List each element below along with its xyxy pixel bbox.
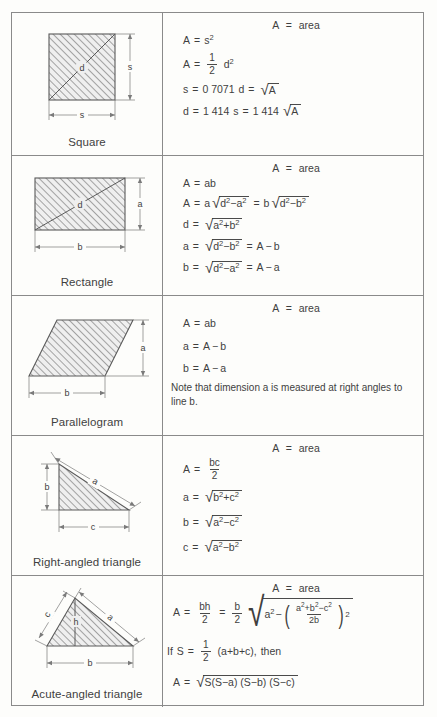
sym-area-word: area [299,19,320,31]
f-if: If [167,646,173,658]
f-const: 0 7071 [202,84,234,96]
f-then: then [261,646,281,658]
f-const: 1 414 [253,106,279,118]
label-base-b: b [87,658,92,668]
num-inner: a2+b2−c2 [294,604,334,614]
frac-inner: a2+b2−c2 2b [294,604,334,625]
f-A: A [257,241,264,253]
f-b: b [220,341,226,353]
figure-right-triangle: b c a [12,436,162,556]
area-header-right-triangle: A = area [163,442,423,454]
figure-cell-right-triangle: b c a [12,436,163,575]
f-a: a [183,492,189,504]
f-d: d [183,219,189,231]
f-eq: = [193,492,199,504]
sym-A: A [272,442,278,454]
f-c: c [183,542,188,554]
f-eq: = [248,84,254,96]
figure-parallelogram: a b [12,296,162,416]
f-b: b [274,241,280,253]
formula-square-2: A = 1 2 d2 [183,53,423,76]
label-diagonal-d: d [77,199,82,209]
frac-bc-2: bc 2 [207,458,222,481]
f-b: b [183,363,189,375]
f-b: b [264,198,270,210]
radical-A: √A [283,104,301,119]
label-base-b: b [64,388,69,398]
f-a2: a2 [264,609,274,621]
formula-para-1: A = ab [183,318,423,330]
f-eq: = [193,241,199,253]
f-eq: = [194,318,200,330]
f-div: − [266,262,272,274]
f-A: A [183,59,190,71]
parallelogram-diagram: a b [17,304,157,409]
shape-name-right-triangle: Right-angled triangle [33,556,141,575]
radical-heron: √ S(S−a) (S−b) (S−c) [196,675,298,690]
sym-equals: = [286,302,292,314]
label-height-h: h [73,617,78,627]
f-d: d [183,106,189,118]
radical-a2-b2: √a2−b2 [204,540,241,555]
sym-A: A [272,162,278,174]
radical-d2-b2: √d2−b2 [271,196,308,211]
area-header-parallelogram: A = area [163,302,423,314]
f-eq: = [188,646,194,658]
shape-name-parallelogram: Parallelogram [51,416,123,435]
shape-name-acute-triangle: Acute-angled triangle [32,688,143,707]
frac-b-2: b 2 [232,602,242,625]
formula-table: d s s Square [11,12,424,706]
sym-equals: = [286,162,292,174]
f-s: s [183,84,188,96]
f-A: A [173,607,180,619]
f-ab: ab [204,178,216,190]
formula-rect-2: A = a √d2−a2 = b √d2−b2 [183,196,423,211]
formula-rt-1: A = bc 2 [183,458,423,481]
radical-d2-a2: √d2−a2 [205,261,242,276]
f-eq: = [246,241,252,253]
f-eq: = [184,677,190,689]
f-ab: ab [204,318,216,330]
formula-at-3: A = √ S(S−a) (S−b) (S−c) [173,675,423,690]
heron-body: S(S−a) (S−b) (S−c) [203,675,297,690]
label-vertical-b: b [44,482,49,492]
f-A: A [203,341,210,353]
formula-cell-acute-triangle: A = area A = bh 2 = b 2 [163,576,423,707]
formula-cell-rectangle: A = area A = ab A = a √d2−a2 = b √d2−b2 [163,156,423,295]
sym-A: A [272,302,278,314]
formula-square-3: s = 0 7071 d = √A [183,83,423,98]
square-diagram: d s s [17,20,157,130]
area-header-rectangle: A = area [163,162,423,174]
f-eq: = [253,198,259,210]
f-eq: = [219,607,225,619]
radical-d2-a2: √d2−a2 [212,196,249,211]
formula-rect-4: a = √d2−b2 = A − b [183,239,423,254]
label-side-right-s: s [128,62,133,72]
f-eq: = [192,84,198,96]
f-a: a [274,262,280,274]
label-base-b: b [77,242,82,252]
radical-d2-b2: √d2−b2 [205,239,242,254]
f-eq: = [194,178,200,190]
rectangle-diagram: d a b [17,164,157,269]
label-base-c: c [91,522,96,532]
frac-half: 1 2 [207,53,217,76]
formula-rt-2: a = √b2+c2 [183,490,423,505]
f-sum: (a+b+c), [218,646,257,658]
frac-half: 1 2 [201,640,211,663]
f-eq: = [194,198,200,210]
figure-square: d s s [12,13,162,136]
shape-name-square: Square [68,136,106,155]
frac-bh-2: bh 2 [197,602,212,625]
formula-at-2: If S = 1 2 (a+b+c), then [167,640,423,663]
formula-square-4: d = 1 414 s = 1 414 √A [183,104,423,119]
formula-list-square: A = s2 A = 1 2 d2 s = 0 7071 [163,35,423,119]
formula-cell-square: A = area A = s2 A = 1 2 d2 [163,13,423,155]
table-row-square: d s s Square [12,13,423,156]
f-eq: = [192,542,198,554]
table-row-right-triangle: b c a [12,436,423,576]
formula-rect-5: b = √d2−a2 = A − a [183,261,423,276]
f-eq: = [246,262,252,274]
figure-cell-square: d s s Square [12,13,163,155]
formula-square-1: A = s2 [183,35,423,47]
